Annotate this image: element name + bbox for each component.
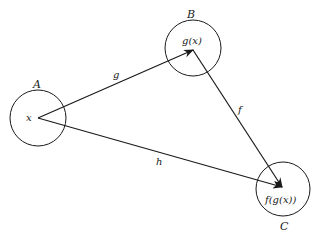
element-x: x (26, 112, 32, 123)
arrow-h (38, 118, 282, 187)
set-c-circle (256, 162, 310, 216)
arrow-g-label: g (113, 69, 119, 80)
element-g-of-x: g(x) (182, 35, 202, 46)
set-c-label: C (280, 220, 289, 233)
composition-diagram: A B C x g(x) f(g(x)) g f h (0, 0, 319, 237)
set-a-label: A (32, 78, 41, 91)
set-b-circle (165, 20, 221, 76)
arrow-g (38, 50, 193, 118)
set-b-label: B (186, 8, 195, 21)
element-f-of-g-of-x: f(g(x)) (264, 194, 296, 205)
arrow-f (193, 50, 282, 187)
arrow-h-label: h (156, 156, 162, 167)
arrow-f-label: f (237, 104, 244, 115)
